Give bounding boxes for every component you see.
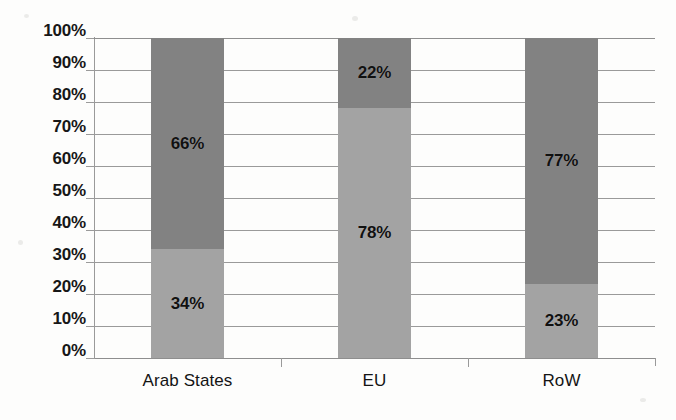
chart-container: 100%90%80%70%60%50%40%30%20%10%0% 34%66%…	[0, 0, 676, 420]
x-axis-right-tick	[655, 358, 656, 366]
x-axis-line	[94, 358, 656, 359]
x-axis-category-labels: Arab StatesEURoW	[94, 368, 656, 402]
x-axis-category-label: Arab States	[143, 368, 233, 394]
y-axis-tick-label: 50%	[8, 182, 86, 199]
bar-value-label: 34%	[171, 294, 204, 314]
y-axis-tick-label: 40%	[8, 214, 86, 231]
scan-artifact	[352, 16, 358, 21]
y-axis-tick-label: 60%	[8, 150, 86, 167]
bar-segment-lower[interactable]: 34%	[151, 249, 224, 358]
x-axis-separator-tick	[468, 358, 469, 367]
y-axis-tick-label: 10%	[8, 310, 86, 327]
bar-segment-lower[interactable]: 23%	[525, 284, 598, 358]
y-axis-tick-labels: 100%90%80%70%60%50%40%30%20%10%0%	[8, 30, 86, 366]
bar-segment-upper[interactable]: 22%	[338, 38, 411, 108]
bar-column[interactable]: 78%22%	[338, 38, 411, 358]
x-axis-category-label: RoW	[542, 368, 580, 394]
bar-column[interactable]: 23%77%	[525, 38, 598, 358]
scan-artifact	[24, 14, 29, 18]
y-axis-tick-label: 0%	[8, 342, 86, 359]
bar-value-label: 66%	[171, 134, 204, 154]
bar-segment-upper[interactable]: 66%	[151, 38, 224, 249]
bar-value-label: 22%	[358, 63, 391, 83]
y-axis-tick-label: 20%	[8, 278, 86, 295]
y-axis-tick-label: 90%	[8, 54, 86, 71]
y-axis-tick-label: 30%	[8, 246, 86, 263]
plot-area: 34%66%78%22%23%77%	[94, 38, 655, 358]
x-axis-separator-tick	[281, 358, 282, 367]
y-axis-tick-label: 70%	[8, 118, 86, 135]
x-axis-category-label: EU	[363, 368, 387, 394]
bar-column[interactable]: 34%66%	[151, 38, 224, 358]
y-axis-tick-mark	[86, 358, 95, 359]
bar-value-label: 77%	[545, 151, 578, 171]
y-axis-tick-label: 80%	[8, 86, 86, 103]
y-axis-tick-label: 100%	[8, 22, 86, 39]
bar-segment-lower[interactable]: 78%	[338, 108, 411, 358]
bar-value-label: 23%	[545, 311, 578, 331]
bar-segment-upper[interactable]: 77%	[525, 38, 598, 284]
bar-value-label: 78%	[358, 223, 391, 243]
